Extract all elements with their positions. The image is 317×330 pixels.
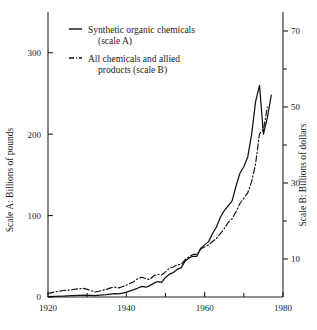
chart-container: 0100200300 10305070 1920194019601980 Sca… [0, 0, 317, 330]
y-axis-left-tick-labels: 0100200300 [28, 48, 42, 302]
y-axis-left-title: Scale A: Billions of pounds [5, 127, 15, 232]
legend-label-series-a-line2: (scale A) [98, 36, 132, 47]
chart-legend: Synthetic organic chemicals (scale A) Al… [69, 25, 195, 77]
y-axis-left-tick-label: 100 [28, 211, 42, 221]
y-axis-right-tick-label: 10 [291, 254, 301, 264]
y-axis-right-tick-label: 50 [291, 102, 301, 112]
legend-label-series-a-line1: Synthetic organic chemicals [88, 25, 195, 35]
series-all-chemicals-allied-products [48, 107, 267, 294]
series-synthetic-organic-chemicals [48, 85, 271, 296]
x-axis-tick-label: 1960 [196, 303, 215, 313]
legend-label-series-b-line1: All chemicals and allied [88, 54, 180, 64]
y-axis-left-tick-label: 200 [28, 130, 42, 140]
y-axis-right-title: Scale B: Billions of dollars [298, 123, 308, 226]
y-axis-right-tick-label: 70 [291, 26, 301, 36]
x-axis-tick-label: 1940 [117, 303, 136, 313]
x-axis-tick-label: 1920 [39, 303, 58, 313]
legend-label-series-b-line2: products (scale B) [98, 65, 167, 76]
y-axis-left-tick-label: 0 [37, 292, 42, 302]
y-axis-right-ticks [283, 31, 288, 259]
x-axis-ticks [48, 292, 283, 297]
x-axis-tick-labels: 1920194019601980 [39, 303, 293, 313]
line-chart: 0100200300 10305070 1920194019601980 Sca… [0, 0, 317, 330]
x-axis-tick-label: 1980 [274, 303, 293, 313]
y-axis-left-tick-label: 300 [28, 48, 42, 58]
y-axis-left-ticks [48, 53, 53, 297]
